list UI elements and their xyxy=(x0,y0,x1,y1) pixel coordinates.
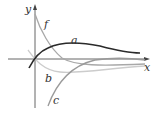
curve-b xyxy=(28,50,145,72)
y-axis-arrow-icon xyxy=(33,4,37,10)
curve-f-label: f xyxy=(43,18,50,31)
curve-c-label: c xyxy=(53,94,59,107)
curve-f xyxy=(35,14,145,65)
x-axis-label: x xyxy=(144,61,151,74)
curve-b-label: b xyxy=(45,72,52,85)
curve-a-label: a xyxy=(71,34,78,47)
y-axis-label: y xyxy=(24,3,32,16)
function-graph-diagram: y x f a b c xyxy=(0,0,156,114)
